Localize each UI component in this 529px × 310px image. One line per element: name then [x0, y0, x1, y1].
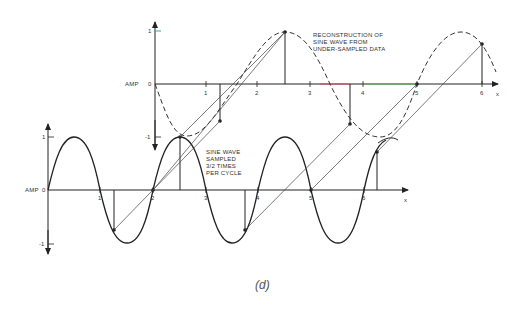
top-y-axis-label: AMP [125, 81, 139, 87]
projection-lines [114, 32, 482, 230]
bottom-x-axis-label: x [404, 197, 407, 203]
bottom-y-tick-neg1: -1 [39, 241, 45, 247]
bottom-plot: 1 2 3 4 5 6 x 1 0 -1 AMP SINE WAVE [25, 124, 408, 254]
top-x-tick-3: 3 [308, 90, 312, 96]
top-x-tick-4: 4 [361, 90, 365, 96]
bottom-y-axis-label: AMP [25, 187, 39, 193]
figure-caption: (d) [255, 278, 270, 292]
top-annotation: RECONSTRUCTION OF SINE WAVE FROM UNDER-S… [313, 32, 385, 52]
top-x-tick-2: 2 [255, 90, 259, 96]
top-y-tick-0: 0 [148, 81, 152, 87]
top-plot: 1 2 3 4 5 6 x 1 0 -1 AMP RECONSTRUCTION … [125, 22, 499, 150]
bottom-y-tick-1: 1 [42, 134, 46, 140]
bottom-y-tick-0: 0 [42, 187, 46, 193]
top-x-tick-6: 6 [480, 90, 484, 96]
top-x-axis-label: x [496, 91, 499, 97]
bottom-annotation: SINE WAVE SAMPLED 3/2 TIMES PER CYCLE [206, 149, 242, 176]
top-y-tick-1: 1 [148, 28, 152, 34]
top-x-tick-5: 5 [415, 90, 419, 96]
top-y-tick-neg1: -1 [145, 134, 151, 140]
sampling-diagram: 1 2 3 4 5 6 x 1 0 -1 AMP RECONSTRUCTION … [0, 0, 529, 310]
top-x-tick-1: 1 [204, 90, 208, 96]
